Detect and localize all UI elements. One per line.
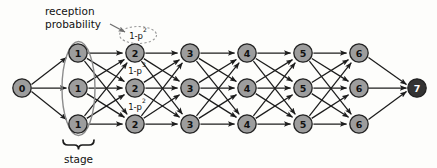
edge-source-to-top <box>32 58 67 85</box>
edge-group-source-fanout <box>32 58 67 120</box>
node-stage6-middle-label: 6 <box>356 83 363 94</box>
edge-stage5-top-to-stage6-middle <box>312 59 349 82</box>
prob-top-label: 1-p2 <box>129 26 147 41</box>
stage-curly-brace <box>63 140 94 150</box>
edge-bottom-to-sink <box>369 92 407 120</box>
edge-group-sink-fanin <box>369 58 407 120</box>
edge-top-to-sink <box>369 58 407 85</box>
node-stage4-bottom-label: 4 <box>244 119 251 130</box>
node-stage3-middle-label: 3 <box>187 83 194 94</box>
node-stage4-top-label: 4 <box>244 48 251 59</box>
reception-probability-line1: reception <box>45 5 95 17</box>
node-stage1-bottom-label: 1 <box>75 119 82 130</box>
node-stage3-bottom-label: 3 <box>187 119 194 130</box>
edge-stage3-top-to-stage4-middle <box>199 58 237 81</box>
node-stage5-top-label: 5 <box>300 48 307 59</box>
node-sink-7-label: 7 <box>414 83 421 94</box>
node-stage6-bottom-label: 6 <box>356 119 363 130</box>
node-stage4-middle-label: 4 <box>244 83 251 94</box>
stage-label: stage <box>64 153 93 165</box>
node-stage1-middle-label: 1 <box>75 83 82 94</box>
node-source-0-label: 0 <box>19 83 26 94</box>
prob-middle-label: 1-p3 <box>128 61 146 76</box>
reception-probability-annotation: reception probability <box>45 5 125 32</box>
node-stage2-middle-label: 2 <box>132 83 139 94</box>
edge-source-to-bottom <box>32 92 67 120</box>
node-stage6-top-label: 6 <box>356 48 363 59</box>
reception-probability-pointer-arrow <box>110 24 125 32</box>
diagram-canvas: 01112223334445556667 1-p2 1-p3 1-p2 rece… <box>0 0 437 168</box>
edge-stage4-top-to-stage5-middle <box>256 59 293 82</box>
node-stage5-bottom-label: 5 <box>300 119 307 130</box>
node-stage3-top-label: 3 <box>187 48 194 59</box>
node-stage1-top-label: 1 <box>75 48 82 59</box>
node-stage2-bottom-label: 2 <box>132 119 139 130</box>
node-stage5-middle-label: 5 <box>300 83 307 94</box>
edge-stage2-top-to-stage3-middle <box>144 59 180 82</box>
trellis-diagram-figure: 01112223334445556667 1-p2 1-p3 1-p2 rece… <box>0 0 437 168</box>
reception-probability-line2: probability <box>45 18 101 30</box>
node-stage2-top-label: 2 <box>132 48 139 59</box>
prob-bottom-label: 1-p2 <box>128 97 146 112</box>
stage-annotation: stage <box>63 140 94 165</box>
